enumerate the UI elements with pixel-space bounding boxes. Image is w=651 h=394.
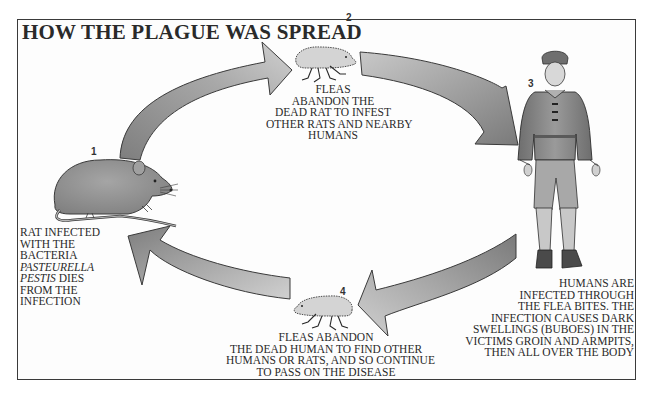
caption-line: THE FLEA BITES. THE: [465, 301, 634, 313]
caption-line: DEAD RAT TO INFEST: [266, 107, 400, 119]
flea-illustration-bottom: [294, 296, 352, 330]
caption-step-1: RAT INFECTED WITH THE BACTERIA PASTEUREL…: [20, 227, 100, 308]
step-number-1: 1: [91, 146, 97, 157]
caption-step-3: HUMANS ARE INFECTED THROUGH THE FLEA BIT…: [465, 278, 634, 359]
caption-line: HUMANS ARE: [465, 278, 634, 290]
step-number-2: 2: [346, 12, 352, 23]
caption-line: FLEAS ABANDON: [226, 332, 426, 344]
caption-line: RAT INFECTED: [20, 227, 100, 239]
flea-illustration-top: [296, 47, 356, 82]
caption-line-italic: PESTIS: [20, 272, 56, 284]
caption-line: HUMANS OR RATS, AND SO CONTINUE: [226, 355, 426, 367]
caption-line: HUMANS: [266, 130, 400, 142]
caption-step-4: FLEAS ABANDON THE DEAD HUMAN TO FIND OTH…: [226, 332, 426, 378]
caption-line: BACTERIA: [20, 250, 100, 262]
step-number-3: 3: [528, 78, 534, 89]
caption-line: SWELLINGS (BUBOES) IN THE: [465, 324, 634, 336]
caption-line: INFECTION: [20, 296, 100, 308]
caption-line: THEN ALL OVER THE BODY: [465, 347, 634, 359]
caption-line: FLEAS: [266, 84, 400, 96]
caption-step-2: FLEAS ABANDON THE DEAD RAT TO INFEST OTH…: [266, 84, 400, 142]
step-number-4: 4: [340, 286, 346, 297]
caption-line: DIES: [56, 272, 84, 284]
rat-illustration: [54, 160, 178, 226]
arrow-flea-to-rat: [128, 226, 290, 299]
caption-line: TO PASS ON THE DISEASE: [226, 367, 426, 379]
